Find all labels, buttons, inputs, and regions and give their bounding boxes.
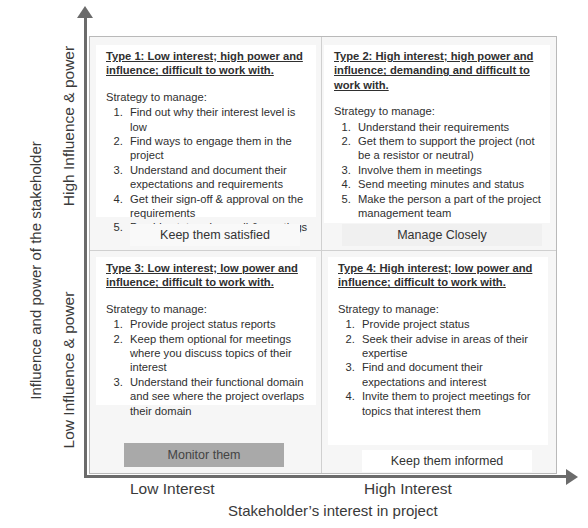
quadrant-card: Type 4: High interest; low power and inf… xyxy=(328,257,548,445)
quadrant-card: Type 2: High interest; high power and in… xyxy=(324,45,550,223)
quadrant-title: Type 4: High interest; low power and inf… xyxy=(338,261,542,290)
quadrant-type-3: Type 3: Low interest; low power and infl… xyxy=(90,251,322,473)
list-item: Involve them in meetings xyxy=(354,163,544,177)
strategy-list: Understand their requirements Get them t… xyxy=(334,120,544,221)
quadrant-type-4: Type 4: High interest; low power and inf… xyxy=(322,251,556,473)
strategy-label: Strategy to manage: xyxy=(338,302,542,316)
x-axis-line xyxy=(84,475,569,478)
list-item: Find ways to engage them in the project xyxy=(126,134,310,163)
list-item: Understand their functional domain and s… xyxy=(126,375,310,418)
y-axis-high-label: High Influence & power xyxy=(60,38,78,214)
list-item: Keep them optional for meetings where yo… xyxy=(126,332,310,375)
quadrant-card: Type 1: Low interest; high power and inf… xyxy=(96,45,316,217)
quadrant-card: Type 3: Low interest; low power and infl… xyxy=(96,257,316,405)
quadrant-type-1: Type 1: Low interest; high power and inf… xyxy=(90,37,322,251)
strategy-label: Strategy to manage: xyxy=(106,90,310,104)
quadrant-type-2: Type 2: High interest; high power and in… xyxy=(322,37,556,251)
x-axis-low-label: Low Interest xyxy=(130,480,214,498)
strategy-list: Provide project status reports Keep them… xyxy=(106,317,310,418)
list-item: Provide project status xyxy=(358,317,542,331)
y-axis-low-label: Low Influence & power xyxy=(60,282,78,458)
list-item: Seek their advise in areas of their expe… xyxy=(358,332,542,361)
y-axis-line xyxy=(84,14,87,478)
list-item: Understand their requirements xyxy=(354,120,544,134)
list-item: Understand and document their expectatio… xyxy=(126,163,310,192)
list-item: Make the person a part of the project ma… xyxy=(354,192,544,221)
strategy-label: Strategy to manage: xyxy=(334,104,544,118)
y-axis-title: Influence and power of the stakeholder xyxy=(27,126,44,416)
strategy-list: Provide project status Seek their advise… xyxy=(338,317,542,418)
x-axis-high-label: High Interest xyxy=(364,480,452,498)
action-label: Keep them satisfied xyxy=(130,224,300,246)
list-item: Find out why their interest level is low xyxy=(126,105,310,134)
stakeholder-matrix: Type 1: Low interest; high power and inf… xyxy=(89,36,557,474)
quadrant-title: Type 3: Low interest; low power and infl… xyxy=(106,261,310,290)
list-item: Get them to support the project (not be … xyxy=(354,134,544,163)
action-label: Keep them informed xyxy=(362,450,532,472)
list-item: Provide project status reports xyxy=(126,317,310,331)
list-item: Invite them to project meetings for topi… xyxy=(358,389,542,418)
strategy-label: Strategy to manage: xyxy=(106,302,310,316)
quadrant-title: Type 2: High interest; high power and in… xyxy=(334,49,544,92)
list-item: Send meeting minutes and status xyxy=(354,177,544,191)
strategy-list: Find out why their interest level is low… xyxy=(106,105,310,235)
action-label-monitor: Monitor them xyxy=(124,443,284,467)
arrow-right-icon xyxy=(566,469,578,485)
list-item: Get their sign-off & approval on the req… xyxy=(126,192,310,221)
x-axis-title: Stakeholder’s interest in project xyxy=(228,502,438,519)
action-label: Manage Closely xyxy=(342,224,542,246)
arrow-up-icon xyxy=(77,6,93,18)
quadrant-title: Type 1: Low interest; high power and inf… xyxy=(106,49,310,78)
list-item: Find and document their expectations and… xyxy=(358,360,542,389)
